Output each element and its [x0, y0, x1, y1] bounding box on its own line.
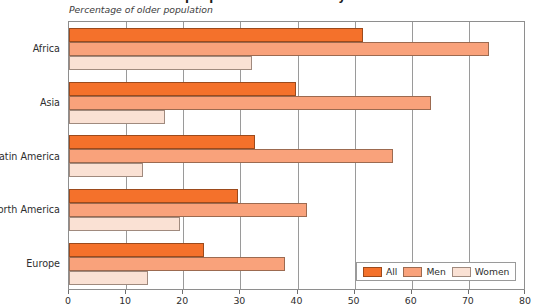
x-axis-tick: [239, 290, 240, 294]
chart-title: Older people are economically active: [0, 0, 535, 3]
x-axis-tick-label: 70: [462, 295, 474, 306]
x-axis-tick: [297, 290, 298, 294]
bar-group: [69, 183, 524, 237]
x-axis-tick: [182, 290, 183, 294]
legend-swatch-men: [403, 267, 422, 277]
plot-area: [68, 21, 525, 290]
bar-men: [69, 203, 307, 217]
x-axis-tick: [354, 290, 355, 294]
x-axis-tick-label: 30: [233, 295, 245, 306]
y-axis-label: Latin America: [0, 150, 60, 161]
x-axis-tick-label: 20: [176, 295, 188, 306]
x-axis-tick: [125, 290, 126, 294]
bar-all: [69, 135, 255, 149]
bar-men: [69, 149, 393, 163]
legend-entry-women[interactable]: Women: [452, 266, 510, 277]
y-axis-label: Asia: [40, 96, 60, 107]
y-axis-label: Europe: [26, 258, 60, 269]
legend-swatch-all: [363, 267, 382, 277]
y-axis-label: North America: [0, 204, 60, 215]
x-axis-tick-label: 40: [291, 295, 303, 306]
chart-subtitle: Percentage of older population: [69, 4, 213, 15]
bar-women: [69, 271, 148, 285]
bar-all: [69, 189, 238, 203]
bar-all: [69, 243, 204, 257]
x-axis-tick: [524, 290, 525, 294]
legend-entry-men[interactable]: Men: [403, 266, 445, 277]
chart-figure: Older people are economically active Per…: [0, 0, 535, 308]
bar-all: [69, 28, 363, 42]
legend-swatch-women: [452, 267, 471, 277]
x-axis-tick-label: 50: [348, 295, 360, 306]
bar-group: [69, 130, 524, 184]
y-axis-label: Africa: [33, 42, 60, 53]
bar-men: [69, 96, 431, 110]
legend-label-men: Men: [426, 266, 445, 277]
bar-men: [69, 42, 489, 56]
chart-legend: AllMenWomen: [356, 262, 516, 281]
bar-group: [69, 22, 524, 76]
x-axis-tick: [411, 290, 412, 294]
bar-women: [69, 217, 180, 231]
x-axis-tick-label: 60: [405, 295, 417, 306]
legend-label-women: Women: [475, 266, 510, 277]
bar-women: [69, 110, 165, 124]
bar-women: [69, 56, 252, 70]
x-axis-tick-label: 10: [119, 295, 131, 306]
legend-label-all: All: [386, 266, 397, 277]
y-axis-labels: AfricaAsiaLatin AmericaNorth AmericaEuro…: [0, 21, 64, 290]
x-axis-tick-label: 0: [65, 295, 71, 306]
bar-group: [69, 76, 524, 130]
legend-entry-all[interactable]: All: [363, 266, 397, 277]
bar-men: [69, 257, 285, 271]
x-axis-tick: [68, 290, 69, 294]
bar-women: [69, 163, 143, 177]
x-axis-tick: [468, 290, 469, 294]
x-axis-tick-label: 80: [519, 295, 531, 306]
bar-all: [69, 82, 296, 96]
x-axis: 01020304050607080: [68, 290, 525, 308]
